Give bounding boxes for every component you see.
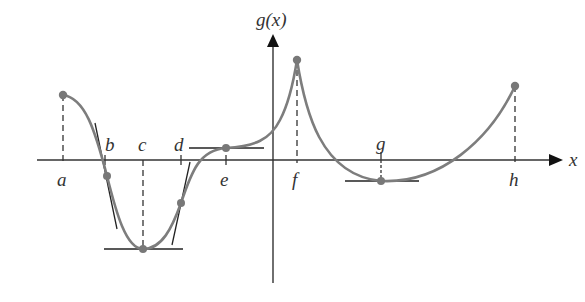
x-axis-label: x	[568, 149, 578, 170]
x-axis	[37, 154, 563, 166]
point-e	[222, 144, 230, 152]
point-a	[59, 91, 67, 99]
point-h	[511, 82, 519, 90]
label-g: g	[376, 133, 386, 154]
y-axis-arrow-icon	[267, 34, 279, 47]
dashed-guides	[63, 60, 515, 249]
label-a: a	[57, 169, 67, 190]
point-f	[293, 56, 301, 64]
label-h: h	[509, 169, 519, 190]
point-b	[103, 172, 111, 180]
label-d: d	[174, 134, 184, 155]
y-axis	[267, 34, 279, 283]
x-axis-arrow-icon	[549, 154, 563, 166]
label-c: c	[138, 134, 147, 155]
label-e: e	[220, 169, 228, 190]
marked-points	[59, 56, 519, 253]
point-g	[377, 177, 385, 185]
function-curve	[63, 60, 515, 249]
label-b: b	[105, 134, 115, 155]
function-graph: a b c d e f g h x g(x)	[0, 0, 585, 302]
y-axis-label: g(x)	[256, 9, 287, 31]
label-f: f	[292, 169, 300, 190]
point-c	[139, 245, 147, 253]
point-d	[177, 199, 185, 207]
